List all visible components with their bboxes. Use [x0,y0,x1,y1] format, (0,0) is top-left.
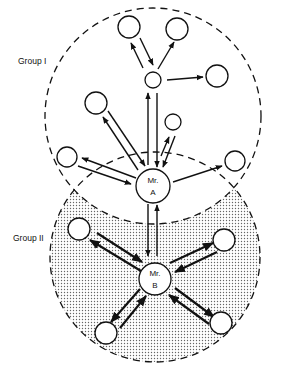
mr-a-line1: Mr. [147,176,158,185]
node-top-left [118,16,140,38]
node-mr-a [136,169,170,203]
node-g2-lower-right [210,312,232,334]
node-far-right [225,151,245,171]
group-ii-label: Group II [13,233,44,243]
node-g2-upper-right [213,229,235,251]
node-top-right [166,18,188,40]
node-left [57,147,77,167]
node-right [206,65,228,87]
mr-a-line2: A [150,188,156,197]
node-upper-left [85,92,107,114]
node-g2-upper-left [68,218,90,240]
node-small-right [165,114,181,130]
edge-hub-right [167,77,203,80]
group-i-label: Group I [18,56,46,66]
edge-hub-top-left-out [131,43,143,68]
edge-top-left-hub-in [140,38,153,65]
node-mr-b [139,263,171,295]
mr-b-line2: B [152,281,157,290]
node-g2-lower-left [95,322,117,344]
mr-b-line1: Mr. [149,269,160,278]
edge-hub-top-right [158,42,174,69]
node-hub [145,72,161,88]
